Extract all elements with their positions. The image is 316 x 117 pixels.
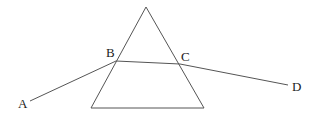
diagram-svg: A B C D: [0, 0, 316, 117]
incident-ray-ab: [30, 61, 116, 101]
label-point-b: B: [106, 45, 115, 60]
prism-diagram: A B C D: [0, 0, 316, 117]
refracted-ray-bc: [116, 61, 180, 64]
label-point-a: A: [18, 96, 28, 111]
label-point-c: C: [181, 49, 190, 64]
emergent-ray-cd: [180, 64, 288, 85]
label-point-d: D: [292, 79, 301, 94]
